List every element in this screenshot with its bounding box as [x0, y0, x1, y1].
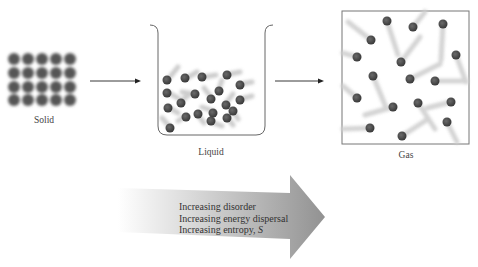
arrow-liquid-to-gas — [275, 79, 324, 84]
increasing-entropy-text: Increasing entropy, S — [179, 224, 339, 236]
liquid-particles — [162, 67, 252, 133]
solid-label: Solid — [24, 115, 64, 125]
arrow-solid-to-liquid — [90, 79, 141, 84]
gas-label: Gas — [386, 150, 426, 160]
entropy-symbol: S — [258, 224, 263, 235]
liquid-label: Liquid — [186, 147, 236, 157]
entropy-arrow-text: Increasing disorder Increasing energy di… — [179, 201, 339, 236]
solid-lattice — [8, 53, 76, 106]
increasing-entropy-label: Increasing entropy, — [179, 224, 258, 235]
increasing-disorder-text: Increasing disorder — [179, 201, 339, 213]
increasing-energy-dispersal-text: Increasing energy dispersal — [179, 213, 339, 225]
